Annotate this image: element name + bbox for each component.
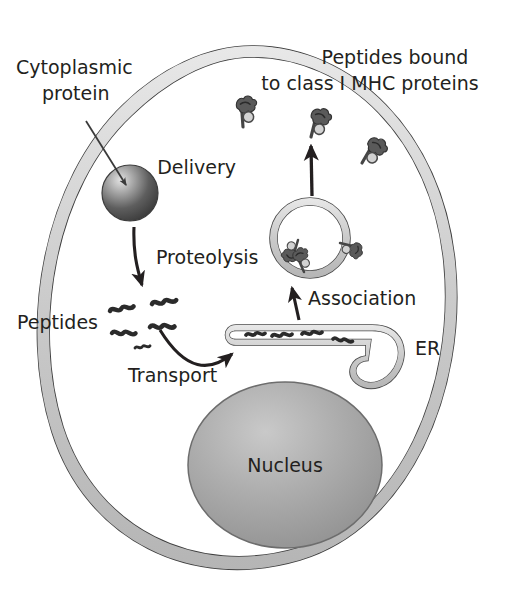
- association-label: Association: [308, 287, 416, 309]
- er-label: ER: [415, 337, 440, 359]
- cytoplasmic-protein: [102, 165, 158, 221]
- peptides-label: Peptides: [17, 311, 98, 333]
- delivery-label: Delivery: [157, 156, 236, 178]
- peptides-bound-label-line1: Peptides bound: [322, 46, 469, 68]
- cytoplasmic-protein-label-line1: Cytoplasmic: [16, 56, 133, 78]
- delivery-arrow: [311, 146, 312, 196]
- transport-label: Transport: [127, 364, 217, 386]
- nucleus: Nucleus: [188, 382, 382, 548]
- mhc-class-i-pathway-figure: Nucleus ER: [0, 0, 505, 600]
- peptides-bound-label-line2: to class I MHC proteins: [261, 72, 478, 94]
- proteolysis-label: Proteolysis: [156, 246, 259, 268]
- nucleus-label: Nucleus: [247, 454, 323, 476]
- cytoplasmic-protein-label-line2: protein: [42, 82, 110, 104]
